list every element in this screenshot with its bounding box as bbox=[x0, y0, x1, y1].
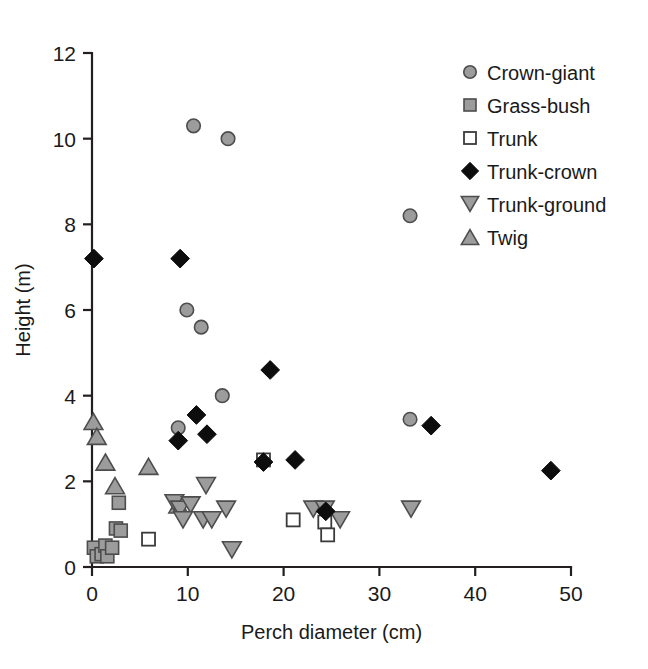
legend-marker-icon bbox=[464, 132, 476, 144]
y-tick-label: 4 bbox=[64, 385, 76, 408]
data-point bbox=[422, 416, 441, 435]
data-point bbox=[287, 513, 300, 526]
data-point bbox=[106, 541, 119, 554]
data-point bbox=[321, 528, 334, 541]
series-trunk-crown bbox=[85, 249, 561, 520]
legend-item-trunk: Trunk bbox=[464, 128, 538, 150]
data-point bbox=[197, 478, 216, 494]
series-grass-bush bbox=[87, 496, 127, 563]
legend-item-grass-bush: Grass-bush bbox=[464, 95, 590, 117]
legend-marker-icon bbox=[461, 230, 478, 245]
y-tick-label: 0 bbox=[64, 556, 76, 579]
legend-marker-icon bbox=[464, 66, 476, 78]
data-point bbox=[85, 249, 104, 268]
legend: Crown-giantGrass-bushTrunkTrunk-crownTru… bbox=[461, 62, 606, 249]
legend-marker-icon bbox=[461, 162, 478, 179]
data-point bbox=[403, 209, 417, 223]
y-tick-label: 6 bbox=[64, 299, 76, 322]
data-point bbox=[198, 425, 217, 444]
data-point bbox=[96, 454, 115, 470]
legend-label: Twig bbox=[487, 227, 528, 249]
legend-label: Crown-giant bbox=[487, 62, 595, 84]
data-point bbox=[194, 320, 208, 334]
legend-item-twig: Twig bbox=[461, 227, 528, 249]
x-axis-title: Perch diameter (cm) bbox=[241, 621, 422, 643]
legend-item-crown-giant: Crown-giant bbox=[464, 62, 596, 84]
legend-label: Grass-bush bbox=[487, 95, 590, 117]
data-point bbox=[106, 478, 125, 494]
x-tick-label: 40 bbox=[464, 582, 487, 605]
data-point bbox=[87, 428, 106, 444]
x-tick-label: 0 bbox=[86, 582, 98, 605]
data-point bbox=[180, 303, 194, 317]
x-tick-label: 20 bbox=[272, 582, 295, 605]
data-point bbox=[542, 461, 561, 480]
series-crown-giant bbox=[171, 119, 416, 434]
data-point bbox=[223, 542, 242, 558]
data-point bbox=[216, 389, 230, 403]
data-point bbox=[187, 406, 206, 425]
data-point bbox=[114, 524, 127, 537]
legend-label: Trunk-crown bbox=[487, 161, 597, 183]
y-tick-label: 10 bbox=[53, 128, 76, 151]
y-tick-label: 2 bbox=[64, 470, 76, 493]
y-tick-label: 8 bbox=[64, 213, 76, 236]
data-point bbox=[403, 412, 417, 426]
data-point bbox=[286, 451, 305, 470]
data-point bbox=[142, 533, 155, 546]
data-point bbox=[169, 431, 188, 450]
x-tick-label: 10 bbox=[176, 582, 199, 605]
data-point bbox=[171, 249, 190, 268]
x-tick-label: 30 bbox=[368, 582, 391, 605]
data-point bbox=[112, 496, 125, 509]
data-point bbox=[139, 458, 158, 474]
data-point bbox=[221, 132, 235, 146]
data-point bbox=[84, 413, 103, 429]
legend-item-trunk-crown: Trunk-crown bbox=[461, 161, 597, 183]
legend-item-trunk-ground: Trunk-ground bbox=[461, 194, 606, 216]
y-tick-label: 12 bbox=[53, 42, 76, 65]
legend-marker-icon bbox=[461, 197, 478, 212]
data-point bbox=[174, 512, 193, 528]
data-point bbox=[331, 512, 350, 528]
data-point bbox=[187, 119, 201, 133]
legend-marker-icon bbox=[464, 99, 476, 111]
legend-label: Trunk bbox=[487, 128, 538, 150]
y-axis-title: Height (m) bbox=[12, 263, 34, 356]
legend-label: Trunk-ground bbox=[487, 194, 606, 216]
scatter-plot-figure: 02468101201020304050 Crown-giantGrass-bu… bbox=[0, 0, 648, 669]
data-points bbox=[84, 119, 560, 563]
plot-canvas: 02468101201020304050 Crown-giantGrass-bu… bbox=[0, 0, 648, 669]
data-point bbox=[402, 501, 421, 517]
x-tick-label: 50 bbox=[559, 582, 582, 605]
data-point bbox=[261, 361, 280, 380]
